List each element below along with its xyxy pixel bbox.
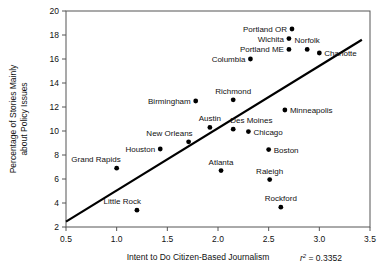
data-point-label: Norfolk: [295, 36, 321, 45]
data-point-label: Rockford: [265, 194, 297, 203]
data-point[interactable]: [287, 36, 292, 41]
data-point[interactable]: [287, 47, 292, 52]
x-tick-label-5: 3.0: [313, 234, 325, 244]
data-point-label: Charlotte: [324, 49, 357, 58]
data-point[interactable]: [305, 47, 310, 52]
data-point[interactable]: [193, 99, 198, 104]
y-tick-label-2: 6: [54, 174, 59, 184]
y-tick-label-3: 8: [54, 150, 59, 160]
x-tick-label-1: 1.0: [111, 234, 123, 244]
regression-line: [66, 40, 362, 222]
data-point-label: Boston: [274, 146, 299, 155]
data-point[interactable]: [290, 27, 295, 32]
data-point[interactable]: [246, 129, 251, 134]
x-tick-label-6: 3.5: [364, 234, 376, 244]
y-tick-label-1: 4: [54, 198, 59, 208]
x-axis-title: Intent to Do Citizen-Based Journalism: [127, 252, 270, 262]
data-point[interactable]: [278, 205, 283, 210]
data-point[interactable]: [158, 147, 163, 152]
data-point-label: New Orleans: [146, 129, 192, 138]
data-point[interactable]: [207, 125, 212, 130]
data-point-label: Des Moines: [230, 116, 272, 125]
data-point-label: Richmond: [215, 87, 251, 96]
y-tick-label-0: 2: [54, 222, 59, 232]
plot-canvas: 0.51.01.52.02.53.03.52468101214161820Int…: [0, 0, 389, 267]
y-tick-label-4: 10: [50, 126, 60, 136]
x-tick-label-2: 1.5: [161, 234, 173, 244]
data-point-label: Birmingham: [148, 97, 191, 106]
y-tick-label-9: 20: [50, 6, 60, 16]
data-point-label: Grand Rapids: [71, 155, 120, 164]
data-point-label: Portland ME: [240, 45, 284, 54]
data-point[interactable]: [266, 147, 271, 152]
data-point-label: Little Rock: [104, 197, 142, 206]
scatter-plot-figure: 0.51.01.52.02.53.03.52468101214161820Int…: [0, 0, 389, 267]
data-point[interactable]: [186, 139, 191, 144]
data-point-label: Portland OR: [243, 25, 287, 34]
x-tick-label-0: 0.5: [60, 234, 72, 244]
r-squared-annotation: r2 = 0.3352: [300, 253, 342, 263]
data-point[interactable]: [135, 208, 140, 213]
data-point-label: Columbia: [212, 55, 246, 64]
data-point[interactable]: [282, 108, 287, 113]
y-axis-title-line2: about Policy Issues: [19, 82, 29, 155]
data-point-label: Wichita: [258, 35, 285, 44]
data-point[interactable]: [219, 168, 224, 173]
data-point[interactable]: [267, 177, 272, 182]
x-tick-label-3: 2.0: [212, 234, 224, 244]
data-point[interactable]: [317, 51, 322, 56]
data-point-label: Minneapolis: [290, 106, 333, 115]
data-point-label: Raleigh: [256, 167, 283, 176]
x-tick-label-4: 2.5: [263, 234, 275, 244]
data-point-label: Austin: [199, 114, 221, 123]
y-tick-label-8: 18: [50, 30, 60, 40]
y-axis-title-line1: Percentage of Stories Mainly: [8, 64, 18, 173]
data-point[interactable]: [248, 57, 253, 62]
data-point[interactable]: [231, 97, 236, 102]
data-point-label: Chicago: [253, 128, 283, 137]
data-point[interactable]: [231, 127, 236, 132]
y-tick-label-5: 12: [50, 102, 60, 112]
data-point-label: Houston: [125, 145, 155, 154]
data-point[interactable]: [114, 166, 119, 171]
data-point-label: Atlanta: [209, 158, 234, 167]
y-tick-label-6: 14: [50, 78, 60, 88]
y-tick-label-7: 16: [50, 54, 60, 64]
